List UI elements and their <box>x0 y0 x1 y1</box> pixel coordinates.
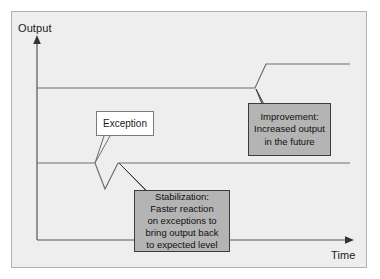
stabilization-line-2: Faster reaction <box>150 203 213 215</box>
diagram-canvas: Output Time Exception Improvement: Incre… <box>0 0 380 279</box>
stabilization-line-5: to expected level <box>146 239 217 251</box>
improvement-line-1: Improvement: <box>260 111 318 123</box>
y-axis-label: Output <box>18 22 52 34</box>
improvement-line-3: in the future <box>264 136 314 148</box>
stabilization-callout: Stabilization: Faster reaction on except… <box>134 190 230 252</box>
stabilization-line-4: bring output back <box>146 227 219 239</box>
improvement-callout: Improvement: Increased output in the fut… <box>248 103 331 156</box>
stabilization-line-1: Stabilization: <box>155 191 209 203</box>
exception-label-text: Exception <box>103 118 147 129</box>
x-axis-label: Time <box>331 249 355 261</box>
exception-leader-lines <box>95 136 110 163</box>
exception-label-box: Exception <box>96 111 154 136</box>
lower-output-line <box>37 163 350 189</box>
y-axis <box>33 35 41 240</box>
stabilization-line-3: on exceptions to <box>147 215 216 227</box>
upper-output-line <box>37 64 350 88</box>
improvement-line-2: Increased output <box>254 123 325 135</box>
